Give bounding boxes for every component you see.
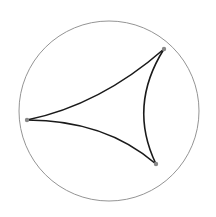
boundary-circle	[19, 21, 199, 201]
edge-left-to-bottom	[27, 120, 156, 164]
triangle-edges	[27, 49, 164, 164]
vertex-bottom-right	[154, 162, 158, 166]
vertex-top-right	[162, 47, 166, 51]
hyperbolic-diagram	[0, 0, 216, 217]
vertex-left	[25, 118, 29, 122]
edge-top-to-bottom	[144, 49, 164, 164]
